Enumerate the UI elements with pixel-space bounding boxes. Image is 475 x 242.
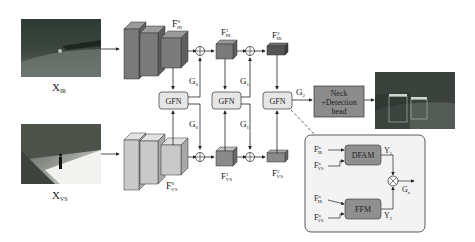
add-node-ir-1: [246, 47, 255, 56]
feature-vs2-label: F2VS: [272, 168, 283, 179]
feature-vs1-label: F1VS: [221, 171, 232, 182]
vs-input-image: [21, 124, 101, 184]
gfn-block-2: GFN: [263, 92, 292, 109]
svg-text:GFN: GFN: [269, 97, 285, 106]
svg-text:Neck: Neck: [331, 89, 348, 98]
input-vs-label: XVS: [52, 189, 68, 202]
vs-backbone-blocks: [124, 133, 188, 190]
svg-text:GFN: GFN: [165, 97, 181, 106]
feature-vs1-block: [216, 147, 237, 166]
gate-g2-label: G2: [296, 87, 306, 98]
svg-text:FFM: FFM: [355, 205, 371, 214]
feature-vs0-label: F0VS: [166, 180, 178, 192]
svg-text:DFAM: DFAM: [352, 151, 375, 160]
gfn-detail-panel: DFAM FFM FnIR FnVS FnIR FnVS Y1 Y2 Gn: [305, 135, 425, 232]
feature-vs2-block: [267, 150, 288, 162]
gate-g1-label-up: G1: [240, 76, 250, 87]
add-node-vs-0: [196, 153, 205, 162]
gate-g0-label-down: G0: [189, 119, 199, 130]
input-ir-label: XIR: [52, 81, 66, 94]
gfn-block-1: GFN: [212, 92, 241, 109]
feature-ir1-label: F1IR: [221, 27, 231, 38]
feature-ir2-label: F2IR: [272, 30, 282, 41]
gate-g1-label-down: G1: [240, 119, 250, 130]
svg-text:GFN: GFN: [218, 97, 234, 106]
feature-ir2-block: [267, 43, 288, 55]
ir-input-image: [21, 19, 101, 77]
detection-output-image: [375, 72, 455, 129]
feature-ir0-label: F0IR: [172, 18, 183, 30]
architecture-diagram: XIR XVS F0IR: [0, 0, 475, 242]
neck-detection-head-block: Neck +Detection head: [314, 86, 364, 117]
detail-link-dashed: [291, 110, 316, 136]
svg-text:+Detection: +Detection: [321, 98, 357, 107]
multiply-node: [388, 176, 398, 186]
feature-ir1-block: [216, 40, 237, 59]
add-node-ir-0: [196, 47, 205, 56]
add-node-vs-1: [246, 153, 255, 162]
svg-text:head: head: [331, 107, 346, 116]
gfn-block-0: GFN: [159, 92, 188, 109]
gate-g0-label-up: G0: [189, 76, 199, 87]
ir-backbone-blocks: [124, 22, 188, 79]
